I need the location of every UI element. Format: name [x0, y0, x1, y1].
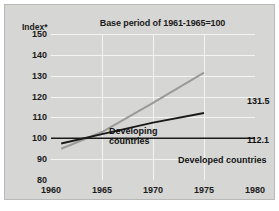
- series-label-developing-line1: Developing: [109, 126, 158, 136]
- series-label-developed: Developed countries: [178, 155, 267, 165]
- x-tick-1980: 1980: [235, 185, 275, 195]
- y-tick-140: 140: [21, 51, 47, 60]
- x-tick-1970: 1970: [133, 185, 173, 195]
- x-tick-1975: 1975: [184, 185, 224, 195]
- y-tick-120: 120: [21, 93, 47, 102]
- x-axis-tick-labels: 19601965197019751980: [51, 185, 255, 197]
- x-tick-1965: 1965: [82, 185, 122, 195]
- x-tick-1960: 1960: [31, 185, 71, 195]
- y-tick-100: 100: [21, 134, 47, 143]
- y-tick-80: 80: [21, 176, 47, 185]
- chart-figure: Index* Base period of 1961-1965=100 8090…: [4, 4, 275, 200]
- plot-area: Developing countries Developed countries…: [51, 34, 255, 180]
- y-tick-130: 130: [21, 72, 47, 81]
- y-tick-150: 150: [21, 30, 47, 39]
- y-tick-90: 90: [21, 155, 47, 164]
- chart-title: Base period of 1961-1965=100: [65, 18, 260, 28]
- series-value-developed: 112.1: [247, 135, 269, 145]
- y-axis-tick-labels: 8090100110120130140150: [19, 34, 47, 180]
- series-label-developing: Developing countries: [109, 126, 158, 146]
- y-tick-110: 110: [21, 113, 47, 122]
- series-label-developing-line2: countries: [109, 136, 150, 146]
- series-value-developing: 131.5: [247, 96, 270, 106]
